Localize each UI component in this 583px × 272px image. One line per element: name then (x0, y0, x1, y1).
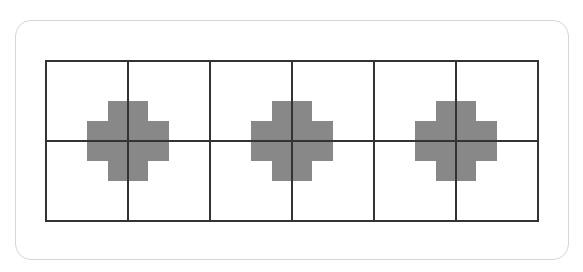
grid-line-horizontal (45, 140, 539, 142)
grid-line-horizontal (45, 220, 539, 222)
grid-line-horizontal (45, 60, 539, 62)
grid (46, 61, 538, 221)
